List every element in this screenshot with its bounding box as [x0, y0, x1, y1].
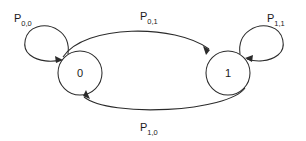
edge-p00: [25, 26, 68, 63]
node-0[interactable]: 0: [58, 51, 102, 95]
edge-label-p11-sub: 1,1: [274, 19, 284, 28]
diagram-canvas: 0 1 P0,0 P0,1 P1,1 P1,0: [0, 0, 306, 141]
edge-label-p00-sub: 0,0: [21, 19, 31, 28]
node-1-label: 1: [225, 67, 231, 79]
edge-p01: [63, 31, 210, 57]
edge-p11: [240, 26, 283, 62]
edge-label-p11-base: P: [267, 12, 274, 24]
edge-label-p10-sub: 1,0: [147, 128, 157, 137]
node-0-label: 0: [77, 67, 83, 79]
edge-p10-path: [84, 88, 245, 110]
edge-label-p00-base: P: [14, 12, 21, 24]
edge-label-p00-text: P0,0: [14, 12, 32, 28]
edge-label-p11: P1,1: [267, 12, 285, 28]
state-diagram: 0 1 P0,0 P0,1 P1,1 P1,0: [0, 0, 306, 141]
edge-p11-path: [240, 26, 283, 61]
edge-label-p10: P1,0: [140, 121, 158, 137]
edge-p00-path: [25, 26, 68, 61]
edge-label-p01-base: P: [140, 10, 147, 22]
edge-p10: [83, 88, 245, 110]
edge-label-p10-base: P: [140, 121, 147, 133]
edge-label-p10-text: P1,0: [140, 121, 158, 137]
edge-p01-path: [63, 31, 209, 57]
edge-label-p00: P0,0: [14, 12, 32, 28]
edge-p00-arrowhead: [55, 56, 63, 63]
node-1[interactable]: 1: [206, 51, 250, 95]
edge-label-p01-sub: 0,1: [147, 17, 157, 26]
edge-label-p01: P0,1: [140, 10, 158, 26]
edge-label-p01-text: P0,1: [140, 10, 158, 26]
edge-label-p11-text: P1,1: [267, 12, 285, 28]
